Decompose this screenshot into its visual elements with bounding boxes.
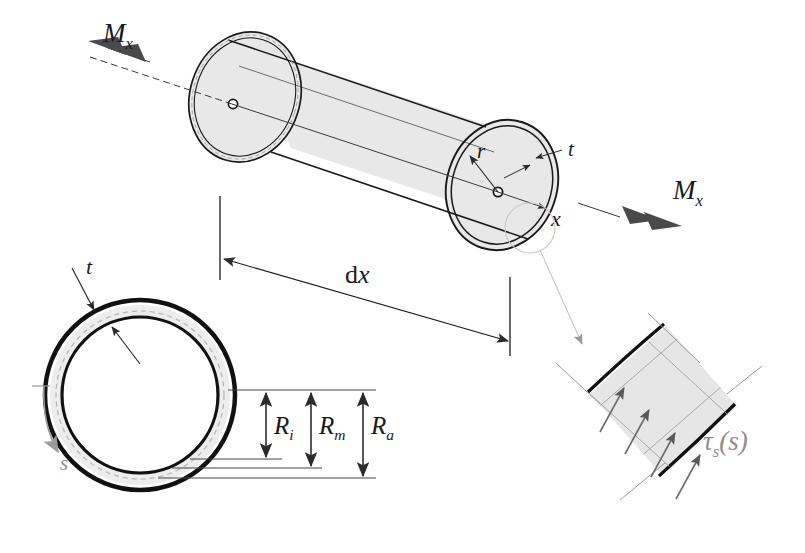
arc-coordinate-label: s [60, 451, 68, 475]
shear-stress-label: τs(s) [703, 426, 748, 461]
radius-r-label: r [477, 139, 486, 163]
section-inner-circle [62, 317, 218, 473]
dx-label: dx [345, 260, 370, 289]
figure-root: Mx Mx x r t dx [0, 0, 805, 553]
thickness-t-label-section: t [86, 254, 93, 279]
tube-torsion-diagram: Mx Mx x r t dx [0, 0, 805, 553]
